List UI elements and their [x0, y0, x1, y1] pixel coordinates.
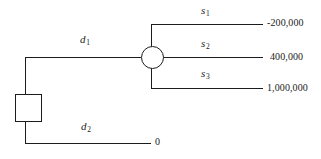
edge-branch-d2 [25, 143, 151, 144]
decision-tree-diagram: 1 2 d1 d2 s1 s2 s3 -200,000 400,000 1,00… [0, 0, 321, 159]
payoff-s1: -200,000 [267, 18, 304, 28]
payoff-s2: 400,000 [270, 52, 303, 62]
payoff-s3: 1,000,000 [267, 83, 308, 93]
edge-branch-s1 [151, 24, 263, 25]
branch-label-s3: s3 [201, 68, 210, 81]
branch-label-d1-base: d [80, 33, 86, 45]
branch-label-s3-subscript: 3 [205, 72, 209, 81]
edge-node1-spine-down [25, 121, 26, 144]
branch-label-s2: s2 [201, 38, 210, 51]
edge-branch-s3 [151, 88, 263, 89]
branch-label-d2: d2 [81, 121, 91, 134]
branch-label-d2-base: d [81, 120, 87, 132]
edge-branch-s2 [163, 57, 263, 58]
edge-branch-d1 [25, 57, 141, 58]
edge-node1-spine-up [25, 57, 26, 95]
branch-label-d1: d1 [80, 34, 90, 47]
branch-label-s2-subscript: 2 [205, 42, 209, 51]
payoff-d2: 0 [155, 137, 160, 147]
decision-node-1[interactable] [15, 94, 42, 122]
branch-label-d1-subscript: 1 [86, 38, 90, 47]
chance-node-2[interactable] [141, 46, 164, 69]
branch-label-d2-subscript: 2 [87, 125, 91, 134]
branch-label-s1: s1 [201, 5, 210, 18]
branch-label-s1-subscript: 1 [205, 9, 209, 18]
